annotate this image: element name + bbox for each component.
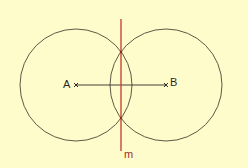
- diagram-canvas: A B m: [0, 0, 248, 168]
- point-a-label: A: [63, 78, 71, 90]
- intersection-point-top: [120, 51, 123, 54]
- intersection-point-bottom: [120, 117, 123, 120]
- construction-figure: A B m: [0, 0, 248, 168]
- point-b-label: B: [170, 76, 177, 88]
- bisector-label: m: [124, 148, 133, 160]
